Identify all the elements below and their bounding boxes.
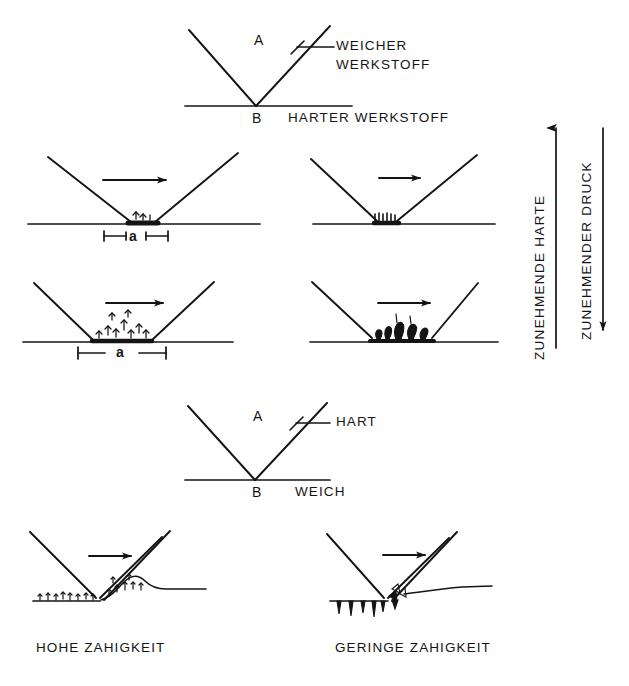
header-diagram-top (185, 26, 352, 106)
bottom-base-material: WEICH (295, 484, 346, 501)
p3-wear-debris (96, 310, 149, 338)
panel-brittle-material-graphics (327, 532, 492, 617)
p6-surface-line-right (404, 586, 492, 594)
p4-wear-debris (376, 314, 428, 339)
p2-wear-debris (375, 213, 395, 221)
top-base-material: HARTER WERKSTOFF (288, 110, 449, 127)
caption-low-toughness: GERINGE ZAHIGKEIT (335, 640, 491, 657)
top-base-label: B (252, 110, 262, 128)
top-tool-material-line1: WEICHER (336, 38, 407, 55)
dimension-label-small-a: a (129, 228, 137, 246)
bottom-tool-label: A (253, 408, 263, 426)
p5-wear-debris (38, 574, 143, 600)
dimension-label-large-a: a (116, 344, 124, 362)
axis-label-increasing-pressure: ZUNEHMENDER DRUCK (579, 161, 594, 340)
tool-right-flank-top (256, 26, 330, 106)
panel-top-right-small-graphics (311, 155, 495, 224)
p1-wear-debris (133, 212, 150, 220)
tool-left-flank-top (189, 30, 256, 106)
bottom-tool-material: HART (336, 414, 377, 431)
wear-mechanism-figure: A WEICHER WERKSTOFF B HARTER WERKSTOFF a… (0, 0, 629, 686)
bottom-base-label: B (252, 484, 262, 502)
tool-left-flank-bottom (188, 406, 255, 480)
panel-tough-material-graphics (30, 531, 206, 601)
axis-label-increasing-hardness: ZUNEHMENDE HARTE (532, 195, 547, 360)
caption-high-toughness: HOHE ZAHIGKEIT (36, 640, 165, 657)
panel-bottom-right-large-graphics (310, 282, 498, 342)
panel-top-left-small-graphics (28, 153, 260, 241)
panel-bottom-left-large-graphics (23, 282, 233, 359)
tool-right-flank-bottom (255, 403, 327, 480)
top-tool-material-line2: WERKSTOFF (336, 57, 430, 74)
p1-right-flank (155, 153, 238, 222)
top-tool-label: A (254, 32, 264, 50)
p1-left-flank (48, 157, 131, 222)
